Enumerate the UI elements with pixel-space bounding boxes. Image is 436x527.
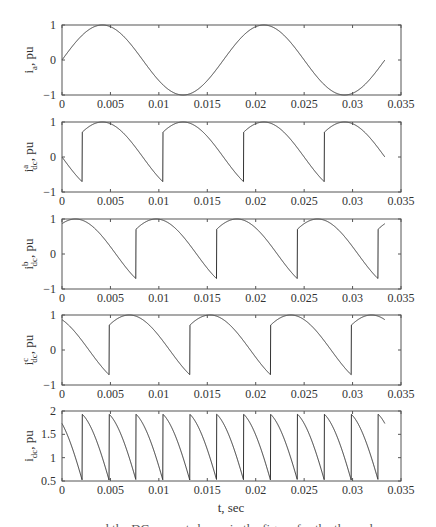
- y-axis-label: idc, pu: [21, 430, 39, 462]
- x-axis-label: t, sec: [218, 500, 245, 515]
- x-tick-label: 0.02: [245, 97, 266, 111]
- x-tick-label: 0: [59, 194, 65, 208]
- y-tick-label: 2: [50, 404, 56, 418]
- x-tick-label: 0.025: [291, 194, 318, 208]
- x-tick-label: 0.015: [194, 291, 221, 305]
- y-tick-label: 0: [50, 150, 56, 164]
- plot-frame: [62, 411, 401, 481]
- y-axis-label: iadc, pu: [20, 141, 39, 172]
- x-tick-label: 0.03: [342, 483, 363, 497]
- y-axis-label: ia, pu: [21, 46, 39, 74]
- x-tick-label: 0.01: [148, 483, 169, 497]
- plot-frame: [62, 315, 401, 385]
- plot-frame: [62, 219, 401, 289]
- panel-ia: 00.0050.010.0150.020.0250.030.035−101ia,…: [21, 18, 415, 111]
- y-tick-label: −1: [43, 282, 56, 296]
- x-tick-label: 0.015: [194, 387, 221, 401]
- series-line: [62, 25, 385, 95]
- y-tick-label: −1: [43, 378, 56, 392]
- y-tick-label: −1: [43, 185, 56, 199]
- x-tick-label: 0.02: [245, 387, 266, 401]
- x-tick-label: 0.03: [342, 387, 363, 401]
- y-tick-label: 1: [50, 18, 56, 32]
- x-tick-label: 0.005: [97, 194, 124, 208]
- x-tick-label: 0.025: [291, 97, 318, 111]
- x-tick-label: 0.015: [194, 97, 221, 111]
- x-tick-label: 0.025: [291, 291, 318, 305]
- x-tick-label: 0.02: [245, 291, 266, 305]
- plot-frame: [62, 25, 401, 95]
- y-tick-label: 0: [50, 53, 56, 67]
- x-tick-label: 0: [59, 291, 65, 305]
- x-tick-label: 0.035: [388, 97, 415, 111]
- x-tick-label: 0.035: [388, 291, 415, 305]
- y-axis-label: icdc, pu: [20, 334, 39, 365]
- x-tick-label: 0.03: [342, 97, 363, 111]
- x-tick-label: 0.03: [342, 291, 363, 305]
- y-axis-label: ibdc, pu: [20, 238, 39, 270]
- panel-idc: 00.0050.010.0150.020.0250.030.0350.511.5…: [21, 404, 415, 497]
- y-tick-label: 0.5: [41, 474, 56, 488]
- series-line: [62, 414, 385, 480]
- series-line: [62, 219, 385, 279]
- x-tick-label: 0.01: [148, 97, 169, 111]
- x-tick-label: 0.035: [388, 483, 415, 497]
- y-tick-label: 1: [50, 212, 56, 226]
- x-tick-label: 0.01: [148, 194, 169, 208]
- x-tick-label: 0.005: [97, 387, 124, 401]
- x-tick-label: 0.03: [342, 194, 363, 208]
- x-tick-label: 0.02: [245, 483, 266, 497]
- y-tick-label: −1: [43, 88, 56, 102]
- x-tick-label: 0.015: [194, 483, 221, 497]
- x-tick-label: 0.005: [97, 97, 124, 111]
- caption-fragment: and the DC current shown in the figure f…: [90, 521, 430, 527]
- series-line: [62, 122, 385, 182]
- panel-idc_a: 00.0050.010.0150.020.0250.030.035−101iad…: [20, 115, 415, 208]
- panel-idc_c: 00.0050.010.0150.020.0250.030.035−101icd…: [20, 308, 415, 401]
- x-tick-label: 0.02: [245, 194, 266, 208]
- plot-frame: [62, 122, 401, 192]
- x-tick-label: 0.005: [97, 483, 124, 497]
- x-tick-label: 0.025: [291, 387, 318, 401]
- y-tick-label: 0: [50, 343, 56, 357]
- y-tick-label: 1: [50, 308, 56, 322]
- series-line: [62, 315, 385, 375]
- x-tick-label: 0.025: [291, 483, 318, 497]
- x-tick-label: 0.035: [388, 387, 415, 401]
- x-tick-label: 0.005: [97, 291, 124, 305]
- x-tick-label: 0: [59, 387, 65, 401]
- x-tick-label: 0.015: [194, 194, 221, 208]
- x-tick-label: 0.035: [388, 194, 415, 208]
- x-tick-label: 0: [59, 97, 65, 111]
- panel-idc_b: 00.0050.010.0150.020.0250.030.035−101ibd…: [20, 212, 415, 305]
- y-tick-label: 0: [50, 247, 56, 261]
- y-tick-label: 1.5: [41, 427, 56, 441]
- figure-canvas: 00.0050.010.0150.020.0250.030.035−101ia,…: [0, 0, 436, 527]
- y-tick-label: 1: [50, 115, 56, 129]
- x-tick-label: 0.01: [148, 387, 169, 401]
- y-tick-label: 1: [50, 451, 56, 465]
- x-tick-label: 0.01: [148, 291, 169, 305]
- x-tick-label: 0: [59, 483, 65, 497]
